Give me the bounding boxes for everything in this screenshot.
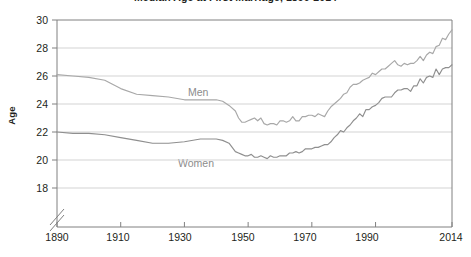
plot-frame	[57, 20, 452, 227]
plot-area	[0, 0, 471, 257]
series-line-men	[57, 30, 452, 125]
series-line-women	[57, 65, 452, 159]
chart-container: Median Age at First Marriage, 1890-2014 …	[0, 0, 471, 257]
axis-ticks	[52, 20, 452, 227]
gridlines	[57, 20, 452, 188]
